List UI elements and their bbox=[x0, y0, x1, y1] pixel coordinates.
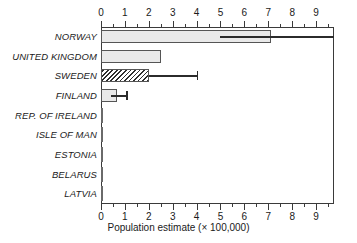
x-minor-tick-bottom bbox=[113, 204, 114, 207]
x-minor-tick-bottom bbox=[304, 204, 305, 207]
x-minor-tick-bottom bbox=[328, 204, 329, 207]
category-label-isle-of-man: ISLE OF MAN bbox=[0, 125, 97, 145]
bar-container bbox=[101, 106, 334, 126]
x-tick-bottom-0 bbox=[101, 204, 102, 210]
category-label-norway: NORWAY bbox=[0, 27, 97, 47]
bar-latvia bbox=[101, 186, 103, 201]
x-tick-label-bottom-4: 4 bbox=[187, 211, 207, 222]
bar-rep-of-ireland bbox=[101, 108, 103, 123]
x-tick-bottom-9 bbox=[316, 204, 317, 210]
x-tick-bottom-6 bbox=[244, 204, 245, 210]
x-tick-label-bottom-5: 5 bbox=[210, 211, 230, 222]
x-tick-label-top-2: 2 bbox=[139, 7, 159, 18]
bar-sweden bbox=[101, 69, 149, 82]
x-tick-label-bottom-8: 8 bbox=[282, 211, 302, 222]
error-bar-line bbox=[220, 36, 334, 38]
bar-container bbox=[101, 125, 334, 145]
x-tick-label-top-4: 4 bbox=[187, 7, 207, 18]
bar-container bbox=[101, 66, 334, 86]
x-tick-label-top-6: 6 bbox=[234, 7, 254, 18]
x-tick-bottom-3 bbox=[173, 204, 174, 210]
x-tick-label-top-9: 9 bbox=[306, 7, 326, 18]
error-bar-cap bbox=[197, 71, 199, 80]
x-tick-label-top-7: 7 bbox=[258, 7, 278, 18]
bar-container bbox=[101, 27, 334, 47]
x-tick-label-bottom-3: 3 bbox=[163, 211, 183, 222]
x-tick-label-top-0: 0 bbox=[91, 7, 111, 18]
x-minor-tick-bottom bbox=[137, 204, 138, 207]
bar-row: REP. OF IRELAND bbox=[0, 106, 357, 126]
bar-rows: NORWAYUNITED KINGDOMSWEDENFINLANDREP. OF… bbox=[0, 27, 357, 204]
error-bar-line bbox=[111, 95, 127, 97]
x-tick-label-top-3: 3 bbox=[163, 7, 183, 18]
category-label-estonia: ESTONIA bbox=[0, 145, 97, 165]
x-tick-label-top-1: 1 bbox=[115, 7, 135, 18]
bar-row: UNITED KINGDOM bbox=[0, 47, 357, 67]
x-tick-bottom-8 bbox=[292, 204, 293, 210]
x-minor-tick-bottom bbox=[232, 204, 233, 207]
bar-container bbox=[101, 165, 334, 185]
x-minor-tick-bottom bbox=[185, 204, 186, 207]
x-tick-bottom-4 bbox=[197, 204, 198, 210]
x-tick-bottom-5 bbox=[220, 204, 221, 210]
category-label-rep-of-ireland: REP. OF IRELAND bbox=[0, 106, 97, 126]
x-tick-bottom-1 bbox=[125, 204, 126, 210]
x-tick-label-top-5: 5 bbox=[210, 7, 230, 18]
x-tick-label-bottom-2: 2 bbox=[139, 211, 159, 222]
x-tick-label-bottom-9: 9 bbox=[306, 211, 326, 222]
bar-row: LATVIA bbox=[0, 184, 357, 204]
x-tick-bottom-7 bbox=[268, 204, 269, 210]
bar-row: NORWAY bbox=[0, 27, 357, 47]
bar-container bbox=[101, 145, 334, 165]
x-minor-tick-bottom bbox=[256, 204, 257, 207]
bar-row: ESTONIA bbox=[0, 145, 357, 165]
x-tick-label-bottom-0: 0 bbox=[91, 211, 111, 222]
bar-container bbox=[101, 184, 334, 204]
x-minor-tick-bottom bbox=[161, 204, 162, 207]
x-minor-tick-bottom bbox=[280, 204, 281, 207]
bar-row: ISLE OF MAN bbox=[0, 125, 357, 145]
category-label-sweden: SWEDEN bbox=[0, 66, 97, 86]
bar-belarus bbox=[101, 167, 103, 182]
bar-estonia bbox=[101, 147, 103, 162]
bar-isle-of-man bbox=[101, 127, 103, 142]
error-bar-cap bbox=[126, 91, 128, 100]
bar-row: FINLAND bbox=[0, 86, 357, 106]
x-tick-label-bottom-7: 7 bbox=[258, 211, 278, 222]
error-bar-line bbox=[149, 75, 197, 77]
bar-united-kingdom bbox=[101, 50, 161, 63]
bar-row: BELARUS bbox=[0, 165, 357, 185]
bar-container bbox=[101, 47, 334, 67]
x-tick-label-top-8: 8 bbox=[282, 7, 302, 18]
bar-row: SWEDEN bbox=[0, 66, 357, 86]
x-tick-label-bottom-6: 6 bbox=[234, 211, 254, 222]
bar-container bbox=[101, 86, 334, 106]
bar-chart: 0123456789 0123456789 NORWAYUNITED KINGD… bbox=[0, 0, 357, 243]
category-label-finland: FINLAND bbox=[0, 86, 97, 106]
category-label-latvia: LATVIA bbox=[0, 184, 97, 204]
x-minor-tick-bottom bbox=[209, 204, 210, 207]
x-axis-title: Population estimate (× 100,000) bbox=[0, 222, 357, 233]
category-label-belarus: BELARUS bbox=[0, 165, 97, 185]
x-tick-bottom-2 bbox=[149, 204, 150, 210]
category-label-united-kingdom: UNITED KINGDOM bbox=[0, 47, 97, 67]
x-tick-label-bottom-1: 1 bbox=[115, 211, 135, 222]
